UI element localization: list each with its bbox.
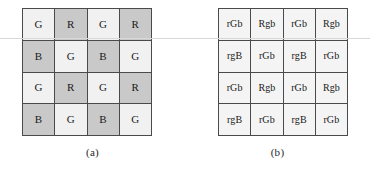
grid-cell: B [88,104,120,136]
grid-cell: Rgb [316,73,348,105]
grid-cell: rGb [219,9,251,41]
grid-cell: B [23,104,55,136]
grid-cell: G [88,9,120,41]
panel-b-caption: (b) [185,146,370,158]
grid-cell: rgB [284,104,316,136]
grid-cell: rgB [284,41,316,73]
grid-cell: G [23,9,55,41]
grid-cell: rGb [251,41,283,73]
grid-cell: rgB [219,41,251,73]
grid-cell: rGb [316,104,348,136]
grid-cell: G [23,73,55,105]
grid-cell: Rgb [251,73,283,105]
grid-cell: Rgb [316,9,348,41]
grid-cell: G [55,41,87,73]
grid-cell: Rgb [251,9,283,41]
grid-cell: G [88,73,120,105]
grid-cell: G [55,104,87,136]
grid-cell: rGb [316,41,348,73]
grid-cell: R [120,73,152,105]
figure-root: GRGRBGBGGRGRBGBG (a) rGbRgbrGbRgbrgBrGbr… [0,0,370,177]
grid-cell: rgB [219,104,251,136]
grid-cell: rGb [284,9,316,41]
grid-cell: B [88,41,120,73]
grid-cell: rGb [284,73,316,105]
channel-notation-grid: rGbRgbrGbRgbrgBrGbrgBrGbrGbRgbrGbRgbrgBr… [218,8,348,136]
figure-panel-b: rGbRgbrGbRgbrgBrGbrgBrGbrGbRgbrGbRgbrgBr… [185,0,370,177]
grid-cell: rGb [219,73,251,105]
grid-cell: R [55,73,87,105]
grid-cell: R [55,9,87,41]
grid-cell: G [120,41,152,73]
figure-panel-a: GRGRBGBGGRGRBGBG (a) [0,0,185,177]
grid-cell: rGb [251,104,283,136]
bayer-cfa-grid: GRGRBGBGGRGRBGBG [22,8,152,136]
grid-cell: R [120,9,152,41]
grid-cell: G [120,104,152,136]
grid-cell: B [23,41,55,73]
panel-a-caption: (a) [0,146,185,158]
